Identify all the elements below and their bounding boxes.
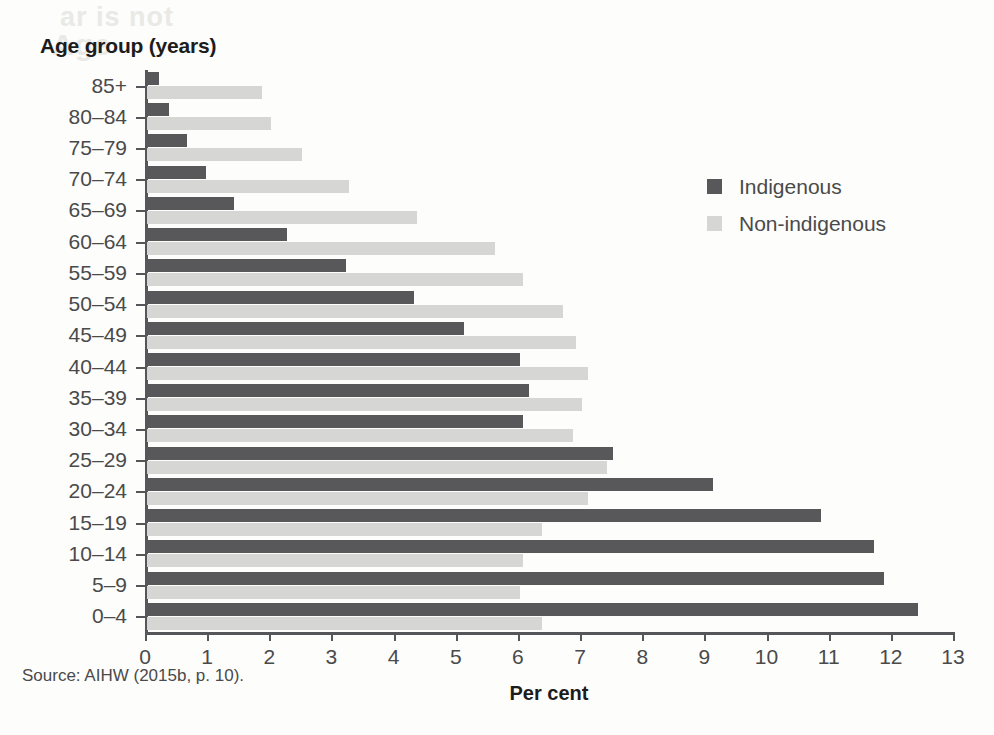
x-axis-tick: [518, 632, 520, 641]
bar-indigenous: [147, 166, 206, 179]
x-axis-tick-label: 11: [818, 645, 840, 669]
x-axis-tick-label: 5: [450, 645, 462, 669]
y-axis-tick: [136, 398, 145, 400]
y-axis-category-label: 25–29: [69, 448, 127, 472]
x-axis-tick-label: 13: [941, 645, 964, 669]
x-axis-tick-label: 7: [574, 645, 586, 669]
bar-non-indigenous: [147, 305, 563, 318]
y-axis-category-label: 55–59: [69, 261, 127, 285]
bar-row: 5–9: [145, 570, 953, 601]
bar-indigenous: [147, 603, 918, 616]
legend-item: Non-indigenous: [707, 205, 886, 242]
x-axis-tick-label: 3: [326, 645, 338, 669]
y-axis-category-label: 30–34: [69, 417, 127, 441]
y-axis-category-label: 45–49: [69, 323, 127, 347]
bar-non-indigenous: [147, 273, 523, 286]
y-axis-tick: [136, 242, 145, 244]
x-axis-tick: [953, 632, 955, 641]
plot-area: 85+80–8475–7970–7465–6960–6455–5950–5445…: [145, 70, 953, 632]
bar-indigenous: [147, 228, 287, 241]
x-axis-tick: [829, 632, 831, 641]
bar-indigenous: [147, 572, 884, 585]
y-axis-category-label: 85+: [91, 74, 127, 98]
bar-non-indigenous: [147, 367, 588, 380]
bar-row: 10–14: [145, 538, 953, 569]
y-axis-tick: [136, 429, 145, 431]
x-axis-tick: [269, 632, 271, 641]
bar-indigenous: [147, 509, 821, 522]
bar-row: 20–24: [145, 476, 953, 507]
bar-non-indigenous: [147, 86, 262, 99]
page-title: Age group (years): [40, 34, 216, 58]
y-axis-tick: [136, 273, 145, 275]
x-axis-title: Per cent: [510, 682, 589, 705]
y-axis-category-label: 20–24: [69, 479, 127, 503]
bar-non-indigenous: [147, 586, 520, 599]
bar-indigenous: [147, 291, 414, 304]
y-axis-category-label: 60–64: [69, 230, 127, 254]
bar-indigenous: [147, 103, 169, 116]
x-axis-tick: [704, 632, 706, 641]
x-axis-tick-label: 2: [263, 645, 275, 669]
bar-row: 35–39: [145, 382, 953, 413]
bar-indigenous: [147, 259, 346, 272]
y-axis-category-label: 50–54: [69, 292, 127, 316]
bar-non-indigenous: [147, 336, 576, 349]
x-axis-tick: [767, 632, 769, 641]
x-axis-tick: [580, 632, 582, 641]
y-axis-tick: [136, 117, 145, 119]
bar-indigenous: [147, 447, 613, 460]
bar-row: 30–34: [145, 413, 953, 444]
bar-indigenous: [147, 478, 713, 491]
bar-indigenous: [147, 540, 874, 553]
bar-row: 25–29: [145, 445, 953, 476]
y-axis-tick: [136, 86, 145, 88]
y-axis-tick: [136, 179, 145, 181]
x-axis-tick: [207, 632, 209, 641]
bar-non-indigenous: [147, 523, 542, 536]
bar-non-indigenous: [147, 148, 302, 161]
legend-label: Non-indigenous: [739, 212, 886, 236]
bar-non-indigenous: [147, 461, 607, 474]
legend-swatch-icon: [707, 179, 722, 194]
y-axis-category-label: 40–44: [69, 355, 127, 379]
y-axis-category-label: 65–69: [69, 198, 127, 222]
y-axis-tick: [136, 585, 145, 587]
y-axis-category-label: 5–9: [92, 573, 127, 597]
y-axis-tick: [136, 148, 145, 150]
bar-indigenous: [147, 353, 520, 366]
x-axis-tick: [331, 632, 333, 641]
y-axis-category-label: 0–4: [92, 604, 127, 628]
y-axis-tick: [136, 367, 145, 369]
x-axis-tick: [642, 632, 644, 641]
legend-item: Indigenous: [707, 168, 886, 205]
y-axis-tick: [136, 523, 145, 525]
bar-row: 50–54: [145, 289, 953, 320]
bar-indigenous: [147, 415, 523, 428]
bar-non-indigenous: [147, 398, 582, 411]
y-axis-category-label: 15–19: [69, 511, 127, 535]
x-axis-tick-label: 10: [755, 645, 778, 669]
bar-row: 15–19: [145, 507, 953, 538]
bar-non-indigenous: [147, 180, 349, 193]
bar-row: 80–84: [145, 101, 953, 132]
x-axis-tick-label: 4: [388, 645, 400, 669]
bar-non-indigenous: [147, 429, 573, 442]
y-axis-category-label: 75–79: [69, 136, 127, 160]
bar-non-indigenous: [147, 242, 495, 255]
x-axis-tick: [394, 632, 396, 641]
x-axis-tick-label: 6: [512, 645, 524, 669]
bar-indigenous: [147, 134, 187, 147]
source-note: Source: AIHW (2015b, p. 10).: [22, 666, 244, 686]
y-axis-tick: [136, 304, 145, 306]
y-axis-category-label: 80–84: [69, 105, 127, 129]
y-axis-tick: [136, 554, 145, 556]
bar-non-indigenous: [147, 492, 588, 505]
x-axis-tick: [456, 632, 458, 641]
bar-row: 55–59: [145, 257, 953, 288]
legend-swatch-icon: [707, 216, 722, 231]
bar-non-indigenous: [147, 617, 542, 630]
y-axis-category-label: 35–39: [69, 386, 127, 410]
bar-indigenous: [147, 384, 529, 397]
x-axis-tick: [891, 632, 893, 641]
